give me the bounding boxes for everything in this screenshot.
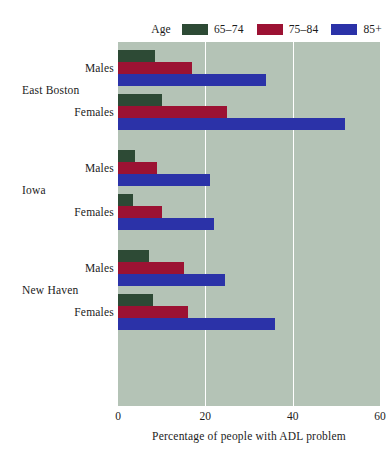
legend-swatch-75-84 bbox=[257, 24, 283, 35]
legend-item-65-74[interactable]: 65–74 bbox=[182, 23, 244, 35]
x-tick-label: 40 bbox=[287, 410, 299, 422]
bar bbox=[118, 306, 188, 318]
legend-label-85plus: 85+ bbox=[363, 23, 382, 35]
bar bbox=[118, 206, 162, 218]
x-tick-label: 0 bbox=[115, 410, 121, 422]
adl-bar-chart: Age 65–74 75–84 85+ MalesFemalesEast Bos… bbox=[0, 0, 392, 466]
bar bbox=[118, 318, 275, 330]
legend-item-85plus[interactable]: 85+ bbox=[331, 23, 382, 35]
bar bbox=[118, 106, 227, 118]
bar bbox=[118, 194, 133, 206]
bar bbox=[118, 118, 345, 130]
y-sub-label: Females bbox=[2, 206, 114, 218]
bar bbox=[118, 62, 192, 74]
y-axis-labels: MalesFemalesEast BostonMalesFemalesIowaM… bbox=[0, 0, 114, 466]
bar bbox=[118, 218, 214, 230]
gridline-60 bbox=[380, 42, 381, 406]
legend-swatch-65-74 bbox=[182, 24, 208, 35]
y-sub-label: Females bbox=[2, 306, 114, 318]
y-group-label: East Boston bbox=[22, 84, 79, 96]
y-group-label: Iowa bbox=[22, 184, 46, 196]
bar bbox=[118, 94, 162, 106]
y-sub-label: Females bbox=[2, 106, 114, 118]
bar bbox=[118, 74, 266, 86]
bar bbox=[118, 50, 155, 62]
y-group-label: New Haven bbox=[22, 284, 78, 296]
bar bbox=[118, 294, 153, 306]
legend-label-65-74: 65–74 bbox=[214, 23, 244, 35]
gridline-40 bbox=[293, 42, 294, 406]
x-tick-label: 20 bbox=[200, 410, 212, 422]
bar bbox=[118, 250, 149, 262]
plot-area bbox=[118, 42, 380, 406]
legend-label-75-84: 75–84 bbox=[289, 23, 319, 35]
y-sub-label: Males bbox=[2, 162, 114, 174]
x-tick-label: 60 bbox=[374, 410, 386, 422]
y-sub-label: Males bbox=[2, 62, 114, 74]
legend-item-75-84[interactable]: 75–84 bbox=[257, 23, 319, 35]
y-sub-label: Males bbox=[2, 262, 114, 274]
bar bbox=[118, 174, 210, 186]
legend-title: Age bbox=[151, 23, 171, 35]
x-axis-title: Percentage of people with ADL problem bbox=[118, 430, 380, 442]
bar bbox=[118, 262, 184, 274]
bar bbox=[118, 150, 135, 162]
legend-swatch-85plus bbox=[331, 24, 357, 35]
bar bbox=[118, 274, 225, 286]
bar bbox=[118, 162, 157, 174]
